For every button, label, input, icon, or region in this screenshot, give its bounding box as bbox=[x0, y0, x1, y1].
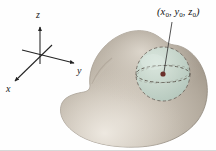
y-axis-label: y bbox=[77, 66, 81, 76]
point-marker bbox=[160, 71, 165, 76]
point-label-y-sub: 0 bbox=[179, 11, 183, 19]
point-label-z-sub: 0 bbox=[192, 11, 196, 19]
point-annotation-layer bbox=[0, 0, 216, 151]
x-axis-label: x bbox=[6, 84, 10, 94]
point-label-close: ) bbox=[196, 6, 200, 17]
point-coordinate-label: (x0, y0, z0) bbox=[157, 7, 200, 18]
z-axis-label: z bbox=[36, 10, 40, 20]
point-label-x-sub: 0 bbox=[165, 11, 169, 19]
leader-line bbox=[164, 22, 172, 72]
figure-bottom-rule bbox=[0, 150, 216, 151]
figure-canvas: z y x (x0, y0, z0) bbox=[0, 0, 216, 151]
